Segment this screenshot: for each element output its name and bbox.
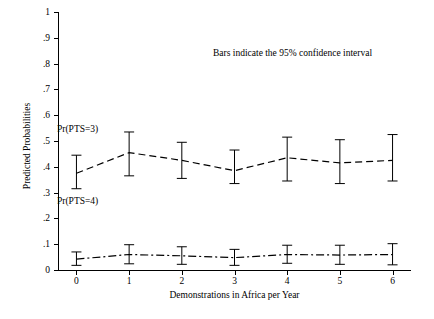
predicted-probabilities-chart: 0.1.2.3.4.5.6.7.8.91 0123456 Predicted P… bbox=[0, 0, 434, 319]
series-2 bbox=[71, 244, 397, 266]
plot-graphics bbox=[0, 0, 434, 319]
series-1 bbox=[71, 132, 397, 189]
